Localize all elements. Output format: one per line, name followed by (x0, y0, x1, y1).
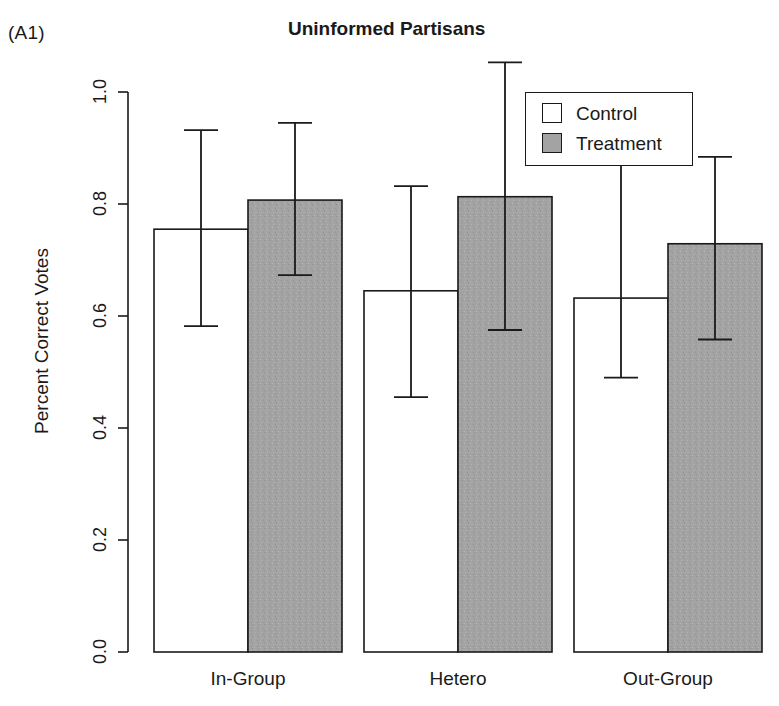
y-axis-label: Percent Correct Votes (31, 221, 53, 461)
y-tick-label: 0.4 (90, 398, 111, 458)
legend-swatch-treatment (542, 133, 562, 153)
y-tick-label: 0.6 (90, 286, 111, 346)
legend: Control Treatment (525, 92, 693, 166)
x-tick-label-in-group: In-Group (154, 668, 342, 690)
x-tick-label-out-group: Out-Group (574, 668, 762, 690)
legend-label-control: Control (576, 104, 637, 123)
legend-label-treatment: Treatment (576, 134, 662, 153)
y-tick-label: 0.2 (90, 510, 111, 570)
y-tick-label: 0.8 (90, 174, 111, 234)
y-tick-label: 1.0 (90, 62, 111, 122)
legend-item-control: Control (542, 103, 637, 123)
y-tick-label: 0.0 (90, 622, 111, 682)
x-tick-label-hetero: Hetero (364, 668, 552, 690)
legend-item-treatment: Treatment (542, 133, 662, 153)
legend-swatch-control (542, 103, 562, 123)
